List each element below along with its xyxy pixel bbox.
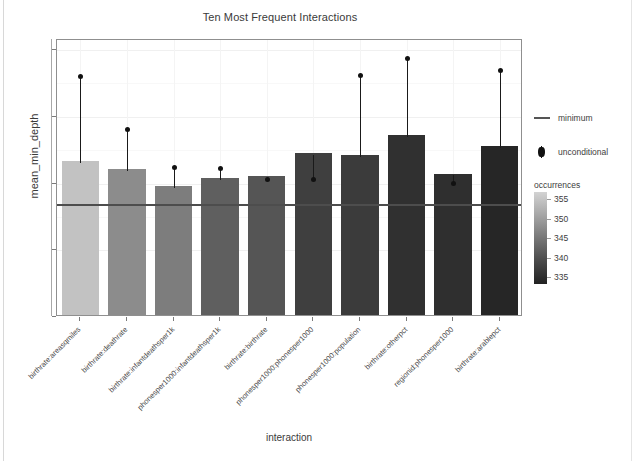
legend: minimum unconditional occurrences 355350… [533,112,631,284]
x-tick-label: phonesper1000:infantdeathsper1k [136,325,223,412]
bar-series [57,40,521,315]
page-right-edge [631,0,632,461]
colorbar-gradient [534,192,547,284]
bar[interactable] [341,155,378,315]
x-tick-label: phonesper1000:phonesper1000 [234,325,316,407]
x-tick-mark [219,317,220,321]
unconditional-whisker [174,167,175,187]
legend-label-unconditional: unconditional [558,147,608,157]
unconditional-point-icon [533,146,551,158]
legend-label-minimum: minimum [558,113,592,123]
x-tick-label: birthrate:otherpct [362,325,408,371]
unconditional-whisker [500,70,501,148]
bar[interactable] [108,169,145,315]
x-tick-mark [359,317,360,321]
chart-root: Ten Most Frequent Interactions mean_min_… [0,0,634,461]
x-tick-mark [499,317,500,321]
bar[interactable] [201,178,238,315]
unconditional-point[interactable] [125,127,130,132]
legend-item-unconditional: unconditional [533,146,631,158]
bar[interactable] [248,176,285,315]
unconditional-point[interactable] [405,56,410,61]
bar[interactable] [388,135,425,315]
x-tick-label: birthrate:arablepct [453,325,502,374]
x-tick-label: birthrate:birthrate [222,325,269,372]
colorbar-tick-mark [547,238,551,239]
colorbar-tick-label: 345 [554,233,568,243]
colorbar-tick-label: 355 [554,194,568,204]
unconditional-point[interactable] [78,74,83,79]
unconditional-whisker [80,76,81,163]
unconditional-point[interactable] [265,177,270,182]
unconditional-point[interactable] [172,165,177,170]
colorbar-tick-mark [547,219,551,220]
colorbar-tick-mark [547,258,551,259]
unconditional-whisker [313,155,314,180]
chart-title: Ten Most Frequent Interactions [0,11,560,23]
legend-item-minimum: minimum [533,112,631,124]
x-tick-mark [452,317,453,321]
unconditional-whisker [127,129,128,170]
colorbar-tick-label: 340 [554,253,568,263]
x-tick-mark [266,317,267,321]
minimum-reference-line [57,204,521,206]
x-axis-label: interaction [56,432,522,443]
y-axis-label: mean_min_depth [28,86,40,226]
x-tick-label: birthrate:areasqmiles [27,325,83,381]
unconditional-point[interactable] [498,68,503,73]
x-tick-mark [126,317,127,321]
unconditional-whisker [360,75,361,157]
x-tick-mark [173,317,174,321]
unconditional-point[interactable] [218,166,223,171]
minimum-line-icon [533,112,551,124]
unconditional-point[interactable] [358,73,363,78]
bar[interactable] [481,146,518,315]
bar[interactable] [62,161,99,315]
colorbar-tick-label: 335 [554,272,568,282]
bar[interactable] [434,174,471,316]
colorbar-tick-label: 350 [554,214,568,224]
x-tick-mark [79,317,80,321]
colorbar-tick-mark [547,277,551,278]
plot-panel [56,39,522,316]
y-tick-mark-zero [52,316,56,317]
colorbar-title: occurrences [534,180,631,190]
colorbar-tick-mark [547,199,551,200]
x-tick-label: birthrate:deathrate [80,325,130,375]
unconditional-whisker [407,59,408,137]
colorbar: 355350345340335 [533,192,631,284]
page-left-edge [3,0,4,461]
y-axis-line [51,39,52,316]
x-tick-mark [312,317,313,321]
x-tick-mark [406,317,407,321]
